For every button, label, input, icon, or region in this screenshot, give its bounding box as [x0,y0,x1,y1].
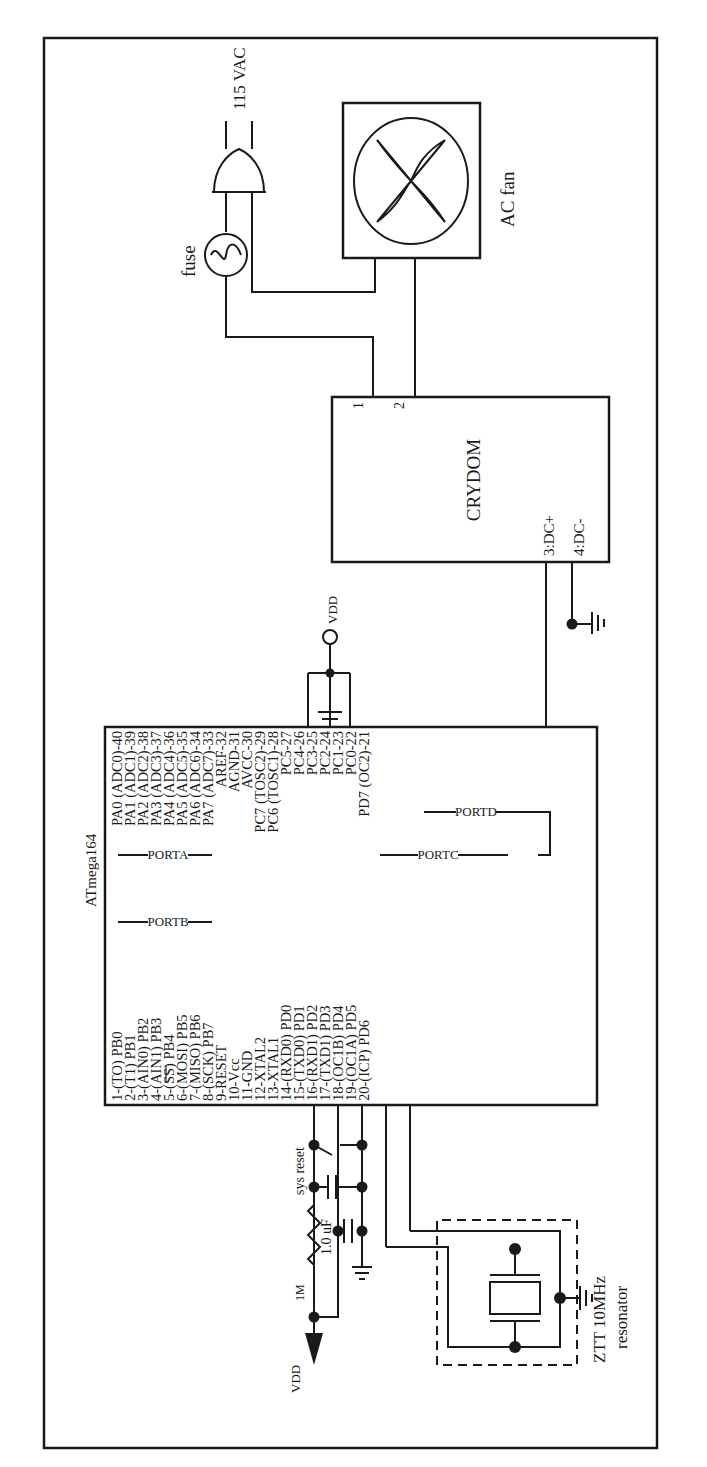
mcu-name-label: ATmega164 [83,833,99,907]
fuse-label: fuse [178,245,199,277]
pin-21: PD7 (OC2)-21 [356,731,373,817]
ssr-pin4-label: 4:DC- [571,518,587,556]
ssr-name-label: CRYDOM [463,439,484,521]
mcu-left-pins: 1-(TO) PB0 2-(T1) PB1 3-(AIN0) PB2 4-(AI… [109,1005,373,1101]
resistor-label: 1M [293,1284,307,1301]
reset-cap-label: 1.0 uF [319,1219,334,1255]
pin-20: 20-(ICP) PD6 [356,1020,373,1101]
vdd-top-label: VDD [325,596,340,624]
mains-voltage-label: 115 VAC [230,47,249,110]
resonator-label-line1: ZTT 10MHz [590,1276,609,1363]
ssr-pin1-label: 1 [351,402,366,409]
reset-circuit: VDD sys reset 1.0 uF 1M [288,1105,410,1393]
port-d-label: PORTD [455,804,497,819]
avcc-decoupling: VDD [308,596,350,727]
reset-switch-label: sys reset [292,1147,307,1195]
reset-switch-icon [314,1145,332,1155]
ac-wiring [226,192,415,397]
port-b-label: PORTB [147,914,188,929]
schematic-page: ATmega164 1-(TO) PB0 2-(T1) PB1 3-(AIN0)… [0,0,707,1467]
ssr-pin3-label: 3:DC+ [541,515,557,556]
vdd-bottom-label: VDD [288,1365,303,1393]
fuse-icon: fuse [178,234,247,277]
plug-icon: 115 VAC [212,47,266,192]
port-c-label: PORTC [417,847,458,862]
ac-fan: AC fan [343,103,518,258]
ssr-pin2-label: 2 [392,402,407,409]
fan-label: AC fan [497,171,518,227]
resonator-shield [437,1220,577,1365]
vdd-arrow-icon [305,1333,323,1365]
ssr-crydom: CRYDOM 1 2 3:DC+ 4:DC- [332,397,609,634]
vdd-terminal [323,630,337,644]
crystal-icon [490,1282,540,1314]
resonator-label-line2: resonator [612,1285,631,1349]
mcu-atmega164: ATmega164 1-(TO) PB0 2-(T1) PB1 3-(AIN0)… [83,727,597,1105]
port-a-label: PORTA [148,847,189,862]
resonator: ZTT 10MHz resonator [386,1220,631,1365]
fan-blades-icon [377,140,445,222]
mcu-right-pins: PA0 (ADC0)-40 PA1 (ADC1)-39 PA2 (ADC2)-3… [109,730,373,832]
